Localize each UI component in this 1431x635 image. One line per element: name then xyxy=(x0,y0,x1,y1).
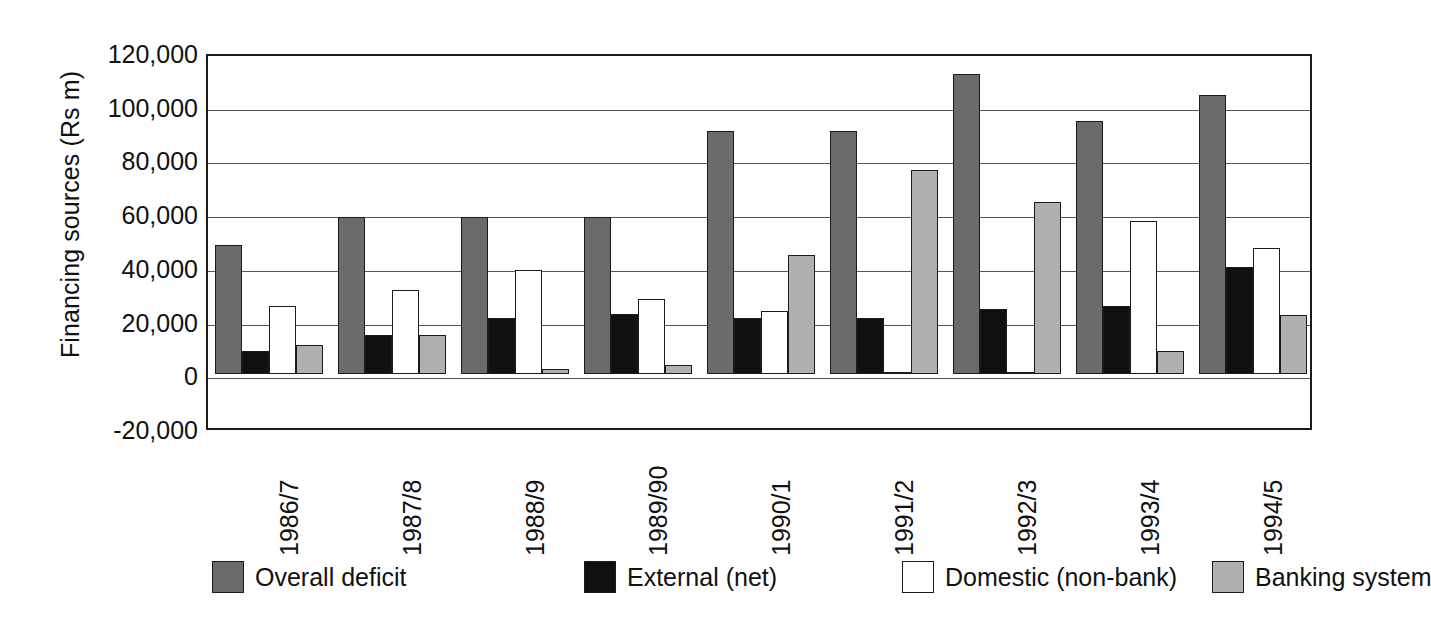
bar xyxy=(1157,351,1184,374)
x-axis-tick-label: 1988/9 xyxy=(523,426,548,556)
legend-item[interactable]: Domestic (non-bank) xyxy=(902,558,1177,596)
bar xyxy=(488,318,515,374)
bar xyxy=(830,131,857,374)
legend-swatch-icon xyxy=(212,561,244,593)
bar xyxy=(461,217,488,374)
legend-swatch-icon xyxy=(584,561,616,593)
bar xyxy=(296,345,323,375)
bar xyxy=(911,170,938,374)
bar xyxy=(1199,95,1226,374)
y-axis-tick-label: -20,000 xyxy=(60,418,198,443)
bar xyxy=(1034,202,1061,374)
bar xyxy=(611,314,638,374)
bar xyxy=(857,318,884,374)
y-axis-tick-label: 0 xyxy=(60,364,198,389)
bar-group xyxy=(577,56,700,428)
bar-group xyxy=(331,56,454,428)
legend-swatch-icon xyxy=(1212,561,1244,593)
bar xyxy=(884,372,911,374)
plot-area xyxy=(206,54,1312,430)
bar xyxy=(734,318,761,374)
bar xyxy=(980,309,1007,375)
bar xyxy=(1253,248,1280,374)
legend-item[interactable]: External (net) xyxy=(584,558,777,596)
bars-layer xyxy=(208,56,1310,428)
bar xyxy=(707,131,734,374)
bar xyxy=(1076,121,1103,375)
x-axis-tick-label: 1990/1 xyxy=(769,426,794,556)
y-axis-tick-label: 20,000 xyxy=(60,310,198,335)
legend-swatch-icon xyxy=(902,561,934,593)
bar xyxy=(215,245,242,374)
x-axis-tick-label: 1994/5 xyxy=(1261,426,1286,556)
bar xyxy=(269,306,296,374)
bar xyxy=(338,217,365,374)
bar-group xyxy=(822,56,945,428)
x-axis-tick-labels: 1986/71987/81988/91989/901990/11991/2199… xyxy=(206,434,1312,554)
bar-group xyxy=(208,56,331,428)
bar xyxy=(242,351,269,374)
bar xyxy=(584,217,611,374)
bar xyxy=(761,311,788,374)
bar-group xyxy=(1191,56,1314,428)
bar xyxy=(638,299,665,374)
chart-legend: Overall deficitExternal (net)Domestic (n… xyxy=(212,558,1332,598)
bar xyxy=(515,270,542,375)
x-axis-tick-label: 1993/4 xyxy=(1138,426,1163,556)
bar xyxy=(1130,221,1157,374)
bar xyxy=(1226,267,1253,374)
legend-label: Domestic (non-bank) xyxy=(945,565,1177,590)
x-axis-tick-label: 1989/90 xyxy=(646,426,671,556)
bar xyxy=(365,335,392,374)
y-axis-tick-label: 60,000 xyxy=(60,203,198,228)
bar xyxy=(1280,315,1307,374)
bar xyxy=(1007,372,1034,374)
bar xyxy=(392,290,419,375)
bar xyxy=(665,365,692,374)
x-axis-tick-label: 1991/2 xyxy=(892,426,917,556)
legend-label: External (net) xyxy=(627,565,777,590)
x-axis-tick-label: 1986/7 xyxy=(277,426,302,556)
bar xyxy=(1103,306,1130,374)
bar xyxy=(788,255,815,375)
legend-item[interactable]: Overall deficit xyxy=(212,558,406,596)
y-axis-tick-label: 40,000 xyxy=(60,256,198,281)
y-axis-tick-label: 100,000 xyxy=(60,95,198,120)
legend-label: Banking system xyxy=(1255,565,1431,590)
bar xyxy=(953,74,980,375)
bar xyxy=(542,369,569,374)
bar-group xyxy=(454,56,577,428)
y-axis-tick-label: 120,000 xyxy=(60,42,198,67)
y-axis-tick-labels: 120,000100,00080,00060,00040,00020,0000-… xyxy=(60,0,198,635)
y-axis-tick-label: 80,000 xyxy=(60,149,198,174)
bar-group xyxy=(945,56,1068,428)
legend-item[interactable]: Banking system xyxy=(1212,558,1431,596)
x-axis-tick-label: 1987/8 xyxy=(400,426,425,556)
bar-group xyxy=(700,56,823,428)
bar-group xyxy=(1068,56,1191,428)
x-axis-tick-label: 1992/3 xyxy=(1015,426,1040,556)
bar xyxy=(419,335,446,374)
legend-label: Overall deficit xyxy=(255,565,406,590)
